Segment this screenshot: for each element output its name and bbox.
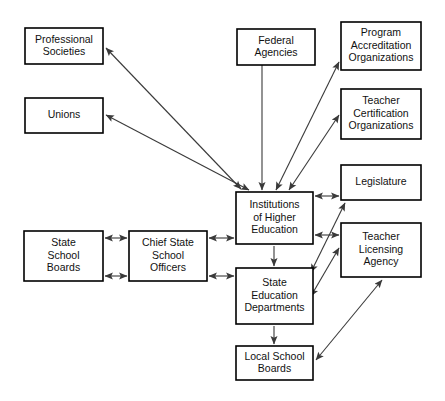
node-label-teacher-certification-organizations: Teacher bbox=[362, 94, 400, 106]
node-label-teacher-licensing-agency: Licensing bbox=[359, 243, 404, 255]
node-local-school-boards[interactable]: Local SchoolBoards bbox=[236, 346, 313, 380]
node-label-state-school-boards: School bbox=[47, 249, 79, 261]
flowchart-diagram: ProfessionalSocietiesUnionsFederalAgenci… bbox=[0, 0, 445, 401]
node-program-accreditation-organizations[interactable]: ProgramAccreditationOrganizations bbox=[341, 22, 421, 70]
node-state-school-boards[interactable]: StateSchoolBoards bbox=[24, 231, 103, 281]
node-label-institutions-of-higher-education: Education bbox=[251, 223, 298, 235]
node-label-institutions-of-higher-education: of Higher bbox=[253, 211, 296, 223]
node-label-unions: Unions bbox=[48, 108, 81, 120]
node-teacher-licensing-agency[interactable]: TeacherLicensingAgency bbox=[341, 223, 421, 277]
node-label-state-education-departments: Education bbox=[251, 289, 298, 301]
node-label-professional-societies: Societies bbox=[43, 45, 86, 57]
edge-sed-legislature bbox=[311, 203, 345, 272]
node-chief-state-school-officers[interactable]: Chief StateSchoolOfficers bbox=[129, 231, 207, 281]
node-label-teacher-licensing-agency: Agency bbox=[363, 255, 399, 267]
edge-local-school-boards-teacher-licensing bbox=[316, 280, 382, 360]
node-label-legislature: Legislature bbox=[355, 175, 407, 187]
node-label-teacher-certification-organizations: Certification bbox=[353, 107, 409, 119]
edge-ihe-program-accreditation bbox=[276, 62, 339, 190]
node-label-federal-agencies: Federal bbox=[258, 34, 294, 46]
node-label-professional-societies: Professional bbox=[35, 33, 93, 45]
nodes-layer: ProfessionalSocietiesUnionsFederalAgenci… bbox=[24, 22, 421, 380]
node-unions[interactable]: Unions bbox=[25, 98, 103, 133]
node-label-chief-state-school-officers: Chief State bbox=[142, 236, 194, 248]
node-label-state-school-boards: Boards bbox=[47, 261, 80, 273]
edge-ihe-unions bbox=[106, 115, 249, 190]
node-label-local-school-boards: Local School bbox=[244, 350, 304, 362]
diagram-canvas: ProfessionalSocietiesUnionsFederalAgenci… bbox=[0, 0, 445, 401]
node-label-state-education-departments: State bbox=[262, 276, 287, 288]
node-federal-agencies[interactable]: FederalAgencies bbox=[237, 29, 315, 65]
node-label-program-accreditation-organizations: Program bbox=[361, 26, 402, 38]
node-label-chief-state-school-officers: School bbox=[152, 249, 184, 261]
node-label-program-accreditation-organizations: Accreditation bbox=[351, 39, 412, 51]
node-label-local-school-boards: Boards bbox=[258, 362, 291, 374]
node-label-chief-state-school-officers: Officers bbox=[150, 261, 186, 273]
node-label-program-accreditation-organizations: Organizations bbox=[349, 51, 414, 63]
node-label-teacher-licensing-agency: Teacher bbox=[362, 230, 400, 242]
node-legislature[interactable]: Legislature bbox=[341, 165, 421, 200]
node-label-state-education-departments: Departments bbox=[244, 301, 304, 313]
node-label-federal-agencies: Agencies bbox=[254, 46, 297, 58]
edge-sed-teacher-licensing bbox=[311, 248, 339, 296]
edge-ihe-teacher-certification bbox=[289, 115, 339, 190]
node-state-education-departments[interactable]: StateEducationDepartments bbox=[236, 268, 313, 324]
edge-ihe-professional-societies bbox=[106, 48, 241, 189]
node-label-state-school-boards: State bbox=[51, 236, 76, 248]
node-label-institutions-of-higher-education: Institutions bbox=[249, 198, 299, 210]
node-professional-societies[interactable]: ProfessionalSocieties bbox=[25, 28, 103, 64]
node-teacher-certification-organizations[interactable]: TeacherCertificationOrganizations bbox=[341, 89, 421, 139]
node-institutions-of-higher-education[interactable]: Institutionsof HigherEducation bbox=[236, 192, 313, 244]
node-label-teacher-certification-organizations: Organizations bbox=[349, 119, 414, 131]
